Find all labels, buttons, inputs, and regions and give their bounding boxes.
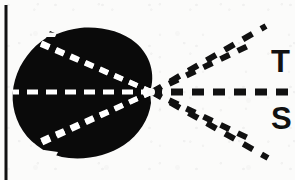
- ray-lower-inner-exterior: [152, 92, 250, 139]
- convergence-point: [147, 88, 155, 96]
- label-s: S: [271, 103, 292, 134]
- left-border-rule: [5, 5, 8, 180]
- label-t: T: [271, 46, 290, 77]
- ray-upper-inner-exterior: [152, 45, 250, 92]
- diagram-canvas: [0, 0, 295, 180]
- upper-left-notch: [43, 32, 57, 37]
- scanned-diagram-figure: T S: [0, 0, 295, 180]
